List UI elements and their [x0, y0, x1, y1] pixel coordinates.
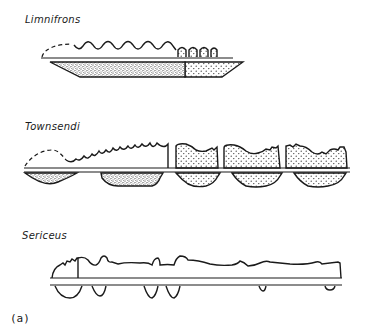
tooth-row-diagram — [0, 0, 372, 334]
sericeus-tooth-row — [50, 256, 342, 298]
townsendi-tooth-row — [24, 143, 350, 187]
limnifrons-tooth-row — [41, 42, 243, 78]
